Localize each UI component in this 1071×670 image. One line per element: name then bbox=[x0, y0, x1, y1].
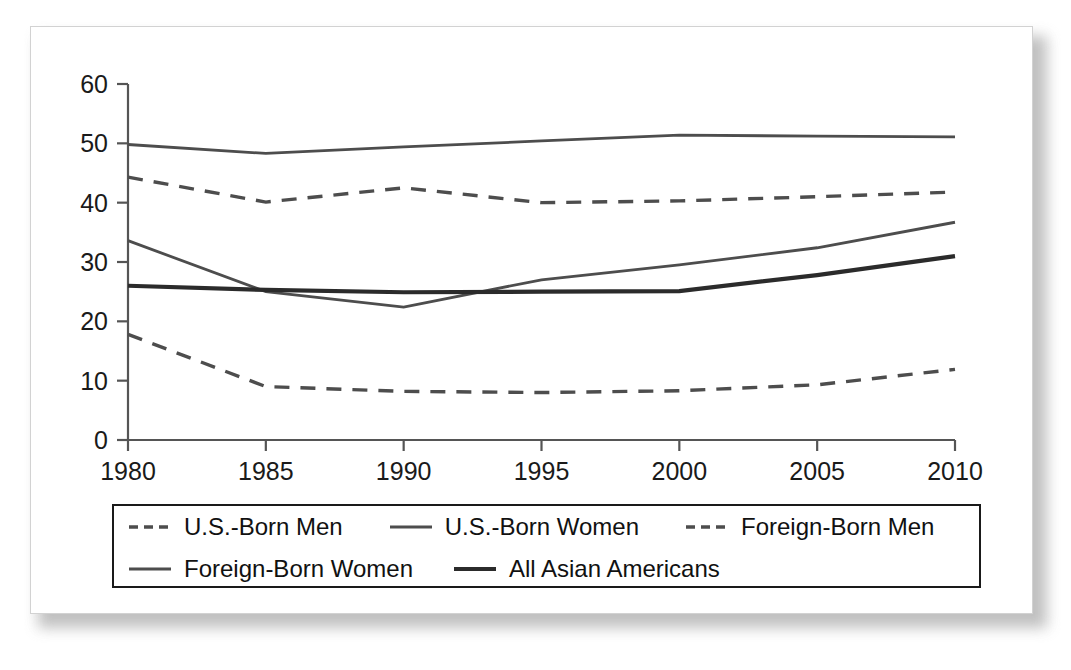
x-tick-label: 1995 bbox=[514, 457, 570, 485]
solid-line-icon bbox=[453, 562, 497, 576]
solid-line-icon bbox=[389, 520, 433, 534]
y-tick-label: 50 bbox=[80, 129, 108, 157]
legend-item[interactable]: Foreign-Born Men bbox=[685, 506, 934, 548]
y-tick-label: 0 bbox=[94, 426, 108, 454]
series-line bbox=[128, 135, 955, 153]
dashed-line-icon bbox=[685, 520, 729, 534]
legend-label: Foreign-Born Women bbox=[184, 555, 413, 583]
legend-row: U.S.-Born MenU.S.-Born WomenForeign-Born… bbox=[114, 506, 979, 548]
y-tick-label: 20 bbox=[80, 307, 108, 335]
x-tick-label: 1985 bbox=[238, 457, 294, 485]
legend-label: All Asian Americans bbox=[509, 555, 720, 583]
figure-root: 0102030405060198019851990199520002005201… bbox=[0, 0, 1071, 670]
y-tick-label: 10 bbox=[80, 367, 108, 395]
x-tick-label: 2005 bbox=[789, 457, 845, 485]
y-tick-label: 30 bbox=[80, 248, 108, 276]
legend-label: Foreign-Born Men bbox=[741, 513, 934, 541]
legend-row: Foreign-Born WomenAll Asian Americans bbox=[114, 548, 979, 590]
chart-series-group bbox=[128, 135, 955, 393]
legend-item[interactable]: U.S.-Born Men bbox=[128, 506, 343, 548]
series-line bbox=[128, 177, 955, 203]
y-tick-label: 40 bbox=[80, 189, 108, 217]
chart-axes: 0102030405060198019851990199520002005201… bbox=[80, 70, 983, 485]
x-tick-label: 2010 bbox=[927, 457, 983, 485]
series-line bbox=[128, 334, 955, 392]
dashed-line-icon bbox=[128, 520, 172, 534]
legend-item[interactable]: All Asian Americans bbox=[453, 548, 720, 590]
solid-line-icon bbox=[128, 562, 172, 576]
legend-item[interactable]: U.S.-Born Women bbox=[389, 506, 639, 548]
y-tick-label: 60 bbox=[80, 70, 108, 98]
legend-label: U.S.-Born Men bbox=[184, 513, 343, 541]
legend-item[interactable]: Foreign-Born Women bbox=[128, 548, 413, 590]
x-tick-label: 2000 bbox=[652, 457, 708, 485]
chart-legend: U.S.-Born MenU.S.-Born WomenForeign-Born… bbox=[112, 504, 981, 588]
legend-label: U.S.-Born Women bbox=[445, 513, 639, 541]
x-tick-label: 1980 bbox=[100, 457, 156, 485]
x-tick-label: 1990 bbox=[376, 457, 432, 485]
series-line bbox=[128, 222, 955, 307]
